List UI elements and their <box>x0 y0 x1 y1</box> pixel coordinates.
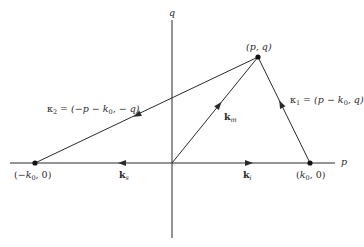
vector-ki-label: ki <box>243 170 252 180</box>
ki-arrow-icon <box>245 160 253 166</box>
kappa1-arrow-icon <box>277 99 286 109</box>
ks-arrow-icon <box>118 160 126 166</box>
kappa2-label: κ2 = (−p − k0, − q) <box>47 104 140 114</box>
point-pq <box>255 54 260 59</box>
point-pos-k0 <box>307 160 312 165</box>
km-edge <box>172 57 258 163</box>
kappa1-label: κ1 = (p − k0, q) <box>290 95 364 105</box>
point-neg-k0 <box>32 160 37 165</box>
point-pq-label: (p, q) <box>246 42 272 52</box>
kappa1-edge <box>258 57 310 163</box>
point-pos-k0-label: (k0, 0) <box>296 170 325 180</box>
p-axis-label: p <box>341 157 347 167</box>
vector-ks-label: ks <box>119 170 129 180</box>
vector-km-label: km <box>224 112 237 122</box>
q-axis-label: q <box>169 8 175 18</box>
point-neg-k0-label: (−k0, 0) <box>14 170 51 180</box>
